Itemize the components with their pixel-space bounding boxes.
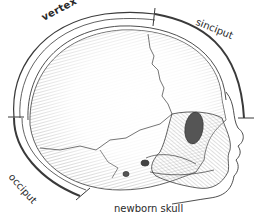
caption: newborn skull bbox=[114, 204, 183, 214]
newborn-skull-diagram: vertex sinciput occiput newborn skull bbox=[0, 0, 261, 220]
skull bbox=[30, 30, 230, 190]
ear-opening bbox=[141, 160, 149, 166]
tick-vertex-sinciput bbox=[153, 8, 155, 26]
tick-occiput-end bbox=[76, 188, 90, 200]
